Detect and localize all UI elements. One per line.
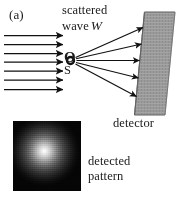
scattered-ray	[76, 64, 137, 97]
detector-panel	[135, 12, 176, 115]
pattern-speckle-noise	[13, 121, 81, 191]
scattered-ray-arrows	[76, 28, 144, 97]
detected-pattern-image	[13, 121, 81, 191]
scattered-ray	[76, 44, 142, 59]
wave-symbol: W	[89, 18, 102, 33]
scattered-wave-label-line1: scattered	[62, 4, 107, 17]
panel-label: (a)	[9, 8, 24, 22]
scattered-wave-label-line2: waveW	[62, 19, 102, 33]
scattering-figure: (a) scattered waveW O S detector detecte…	[0, 0, 183, 210]
wave-word: wave	[62, 19, 89, 33]
scattered-ray	[76, 63, 139, 79]
source-symbol-label: S	[64, 64, 71, 77]
incident-beam-arrows	[4, 36, 63, 90]
detector-label: detector	[113, 117, 154, 130]
detected-pattern-label-line2: pattern	[88, 170, 123, 183]
detected-pattern-label-line1: detected	[88, 155, 130, 168]
